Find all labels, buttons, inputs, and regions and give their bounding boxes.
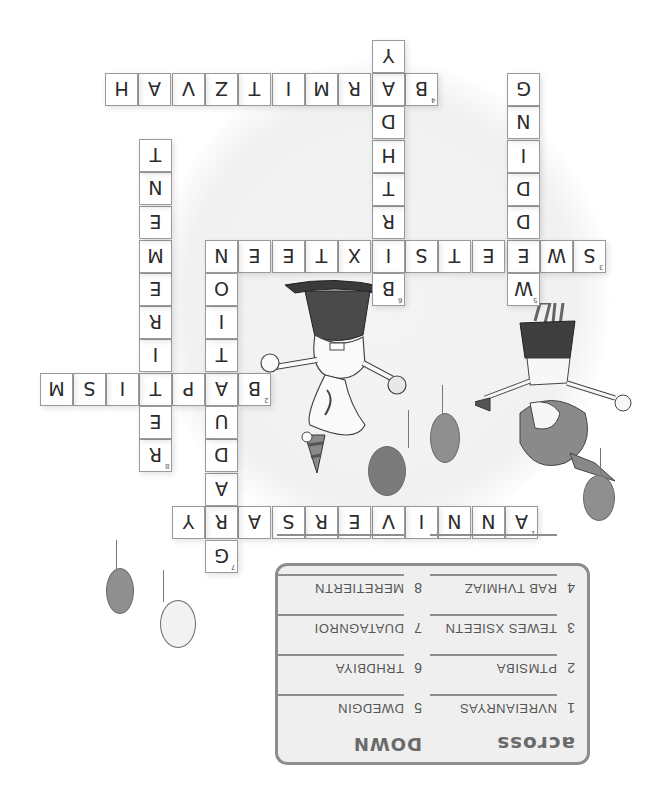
crossword-cell[interactable]: I bbox=[106, 373, 139, 406]
crossword-cell[interactable]: U bbox=[205, 406, 238, 439]
crossword-cell[interactable]: I bbox=[205, 306, 238, 339]
cell-letter: E bbox=[508, 241, 539, 272]
crossword-cell[interactable]: R bbox=[205, 506, 238, 539]
crossword-cell[interactable]: S3 bbox=[573, 240, 606, 273]
crossword-cell[interactable]: M bbox=[139, 240, 172, 273]
crossword-cell[interactable]: Y bbox=[372, 40, 405, 73]
crossword-cell[interactable]: I bbox=[139, 339, 172, 372]
crossword-cell[interactable]: N bbox=[507, 106, 540, 139]
crossword-cell[interactable]: D bbox=[205, 439, 238, 472]
cell-letter: N bbox=[140, 173, 171, 204]
crossword-cell[interactable]: I bbox=[272, 73, 305, 106]
crossword-cell[interactable]: N bbox=[205, 240, 238, 273]
crossword-cell[interactable]: T bbox=[305, 240, 338, 273]
cell-letter: Y bbox=[173, 507, 204, 538]
crossword-cell[interactable]: A bbox=[138, 73, 171, 106]
crossword-cell[interactable]: E bbox=[238, 240, 271, 273]
crossword-cell[interactable]: D bbox=[372, 106, 405, 139]
crossword-cell[interactable]: B2 bbox=[238, 373, 271, 406]
crossword-cell[interactable]: E bbox=[139, 273, 172, 306]
crossword-cell[interactable]: A bbox=[238, 506, 271, 539]
crossword-cell[interactable]: T bbox=[139, 373, 172, 406]
crossword-cell[interactable]: E bbox=[272, 240, 305, 273]
crossword-cell[interactable]: S bbox=[73, 373, 106, 406]
crossword-cell[interactable]: E bbox=[472, 240, 505, 273]
crossword-cell[interactable]: R bbox=[139, 306, 172, 339]
crossword-cell[interactable]: A bbox=[205, 373, 238, 406]
clue-number: 6 bbox=[398, 296, 402, 304]
clue-text: TRHDBIYA bbox=[277, 654, 404, 676]
clue-item: 3TEWES XSIEETN bbox=[430, 614, 575, 654]
clue-number: 5 bbox=[533, 296, 537, 304]
balloon-icon bbox=[583, 475, 615, 521]
crossword-cell[interactable]: Z bbox=[205, 73, 238, 106]
crossword-cell[interactable]: E bbox=[507, 240, 540, 273]
clue-number bbox=[557, 534, 575, 540]
clue-text bbox=[430, 534, 557, 556]
cell-letter: M bbox=[306, 74, 337, 105]
cell-letter: I bbox=[107, 374, 138, 405]
cell-letter: A bbox=[206, 374, 237, 405]
crossword-cell[interactable]: N bbox=[139, 172, 172, 205]
crossword-cell[interactable]: M bbox=[305, 73, 338, 106]
balloon-icon bbox=[106, 568, 134, 614]
crossword-cell[interactable]: R bbox=[372, 206, 405, 239]
crossword-cell[interactable]: A bbox=[372, 73, 405, 106]
crossword-cell[interactable]: P bbox=[172, 373, 205, 406]
crossword-cell[interactable]: B6 bbox=[372, 273, 405, 306]
cell-letter: I bbox=[140, 340, 171, 371]
crossword-cell[interactable]: E bbox=[139, 406, 172, 439]
crossword-cell[interactable]: E bbox=[139, 206, 172, 239]
crossword-cell[interactable]: G bbox=[507, 73, 540, 106]
clue-item: 7DUATAGNROI bbox=[277, 614, 422, 654]
clue-text: RAB TVHMIAZ bbox=[430, 574, 557, 596]
cell-letter: Y bbox=[373, 41, 404, 72]
clue-box: ACROSS 1NVREIANRYAS2PTMSIBA3TEWES XSIEET… bbox=[275, 563, 590, 765]
crossword-cell[interactable]: H bbox=[105, 73, 138, 106]
clue-number: 8 bbox=[165, 462, 169, 470]
balloon-string bbox=[408, 410, 409, 448]
clue-number: 3 bbox=[557, 614, 575, 636]
clue-number: 4 bbox=[557, 574, 575, 596]
crossword-cell[interactable]: T bbox=[372, 173, 405, 206]
crossword-cell[interactable]: M bbox=[40, 373, 73, 406]
crossword-cell[interactable]: Y bbox=[172, 506, 205, 539]
crossword-cell[interactable]: G7 bbox=[205, 540, 238, 573]
crossword-cell[interactable]: D bbox=[507, 206, 540, 239]
crossword-cell[interactable]: A bbox=[205, 473, 238, 506]
clue-number: 2 bbox=[557, 654, 575, 676]
balloon-icon bbox=[368, 446, 406, 496]
crossword-cell[interactable]: O bbox=[205, 273, 238, 306]
crossword-cell[interactable]: D bbox=[507, 173, 540, 206]
crossword-cell[interactable]: B4 bbox=[405, 73, 438, 106]
crossword-cell[interactable]: S bbox=[405, 240, 438, 273]
cell-letter: T bbox=[206, 340, 237, 371]
crossword-cell[interactable]: R bbox=[338, 73, 371, 106]
crossword-cell[interactable]: T bbox=[438, 240, 471, 273]
crossword-cell[interactable]: T bbox=[238, 73, 271, 106]
crossword-cell[interactable]: I bbox=[372, 240, 405, 273]
crossword-cell[interactable]: V bbox=[172, 73, 205, 106]
cell-letter: R bbox=[206, 507, 237, 538]
crossword-cell[interactable]: T bbox=[139, 139, 172, 172]
cell-letter: E bbox=[140, 207, 171, 238]
crossword-cell[interactable]: R8 bbox=[139, 439, 172, 472]
balloon-string bbox=[163, 570, 164, 602]
crossword-cell[interactable]: X bbox=[338, 240, 371, 273]
cell-letter: D bbox=[508, 174, 539, 205]
cell-letter: P bbox=[173, 374, 204, 405]
cell-letter: T bbox=[140, 374, 171, 405]
crossword-cell[interactable]: I bbox=[507, 140, 540, 173]
cell-letter: N bbox=[508, 107, 539, 138]
clue-item bbox=[277, 534, 422, 574]
clue-item: 1NVREIANRYAS bbox=[430, 694, 575, 734]
crossword-cell[interactable]: W5 bbox=[507, 273, 540, 306]
balloon-icon bbox=[160, 600, 196, 648]
crossword-cell[interactable]: T bbox=[205, 339, 238, 372]
cell-letter: S bbox=[406, 241, 437, 272]
crossword-cell[interactable]: W bbox=[540, 240, 573, 273]
crossword-cell[interactable]: H bbox=[372, 140, 405, 173]
clue-number: 1 bbox=[557, 694, 575, 716]
cell-letter: T bbox=[439, 241, 470, 272]
cell-letter: M bbox=[140, 241, 171, 272]
